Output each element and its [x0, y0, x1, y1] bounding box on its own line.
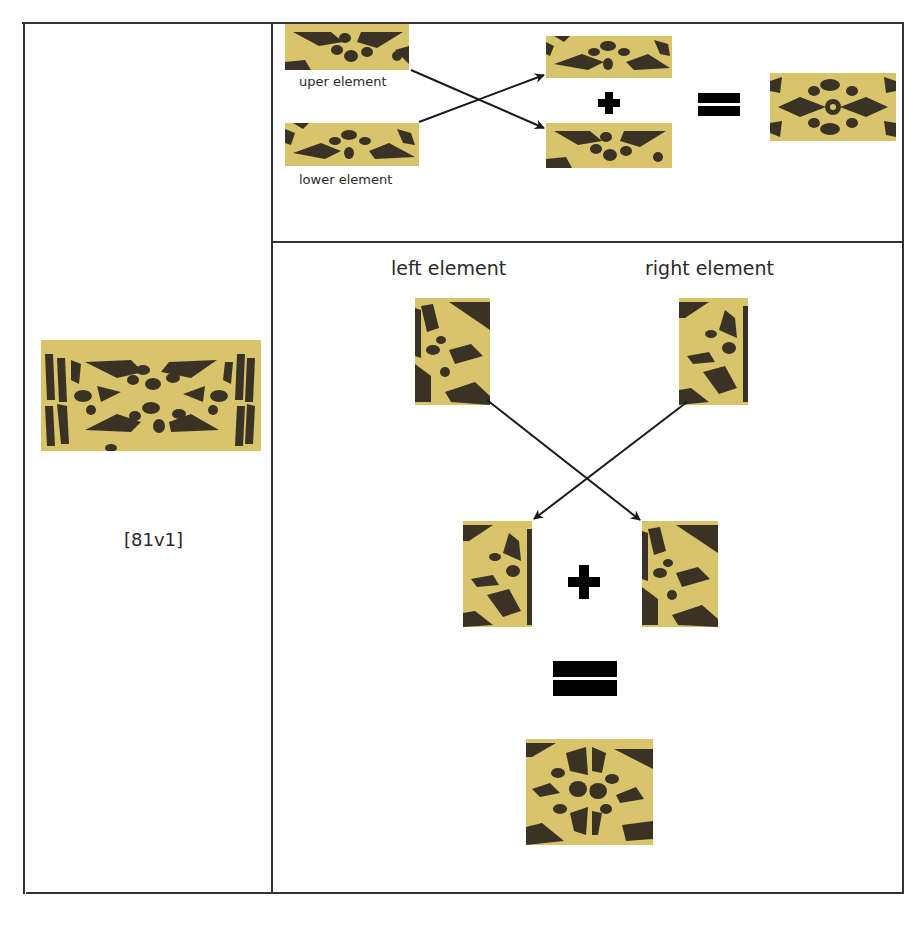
left-element-label: left element [391, 257, 506, 279]
bottom-result-image [526, 739, 653, 845]
lower-element-label: lower element [299, 172, 392, 187]
top-equals-symbol [698, 93, 740, 117]
moved-left-element-image [642, 521, 718, 627]
right-element-label: right element [645, 257, 774, 279]
arrow-upper-to-bottom [411, 70, 544, 128]
table-row-divider [272, 241, 903, 243]
bottom-equals-symbol [553, 661, 617, 696]
bottom-plus-symbol [568, 565, 600, 599]
left-element-image [415, 298, 490, 405]
table-border-right [902, 22, 904, 894]
right-element-image [679, 298, 748, 405]
top-plus-symbol [598, 92, 620, 114]
upper-element-label: uper element [299, 74, 387, 89]
table-column-divider [271, 22, 273, 894]
pattern-caption: [81v1] [124, 529, 183, 550]
arrow-lower-to-top [419, 75, 544, 122]
moved-lower-element-image [546, 36, 672, 78]
lower-element-image [285, 123, 419, 166]
table-border-top [22, 22, 903, 24]
moved-upper-element-image [546, 123, 672, 168]
arrow-right-to-left [534, 402, 687, 519]
table-border-left [23, 22, 25, 894]
table-border-bottom [26, 892, 903, 894]
upper-element-image [285, 24, 409, 70]
pattern-full-image [41, 340, 261, 451]
top-result-image [770, 73, 896, 141]
arrow-left-to-right [487, 400, 640, 520]
moved-right-element-image [463, 521, 532, 627]
